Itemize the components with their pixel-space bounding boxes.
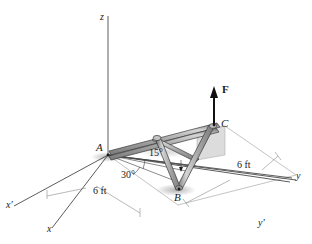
z-axis-label: z — [100, 12, 104, 22]
force-label: F — [222, 84, 229, 95]
dimension-left-label: 6 ft — [93, 186, 107, 196]
angle-30-label: 30° — [121, 170, 135, 180]
figure-canvas: z y y' x x' A B C F 15° 30° 6 ft 6 ft — [0, 0, 312, 244]
y-prime-axis-label: y' — [258, 218, 265, 228]
dim-right-tick2 — [275, 152, 281, 160]
force-vector — [210, 86, 218, 124]
point-B-label: B — [174, 192, 181, 203]
angle-15-label: 15° — [149, 148, 163, 158]
y-axis-label: y — [296, 171, 300, 181]
figure-drawing — [0, 0, 312, 244]
x-axis-label: x — [47, 224, 51, 234]
point-C-label: C — [221, 118, 228, 129]
dim-right-tick1 — [183, 199, 189, 207]
marker-B — [178, 188, 181, 191]
force-arrowhead — [210, 86, 218, 98]
point-A-label: A — [96, 142, 103, 153]
marker-A — [107, 154, 110, 157]
marker-C — [213, 124, 216, 127]
dimension-right-label: 6 ft — [237, 160, 251, 170]
joint-collar-mid — [153, 135, 161, 140]
axis-lines — [14, 16, 296, 228]
x-prime-axis-label: x' — [6, 200, 13, 210]
x-prime-axis-line — [14, 155, 108, 206]
dim-right-b — [262, 156, 278, 170]
